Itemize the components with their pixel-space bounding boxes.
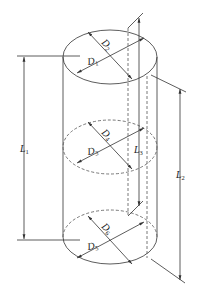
label-D2: D2	[98, 36, 115, 53]
label-D5: D5	[85, 239, 98, 253]
cylinder-diagram: D1 D2 D3 D4 D5 D6 L1 L2 L3	[0, 0, 198, 289]
label-D6: D6	[98, 220, 115, 237]
label-D1: D1	[85, 54, 98, 68]
label-L2: L2	[175, 169, 185, 181]
label-L1: L1	[19, 143, 29, 155]
label-D3: D3	[85, 144, 98, 158]
label-L3: L3	[133, 144, 143, 156]
hidden-lines	[128, 28, 147, 258]
bottom-ellipse	[63, 210, 157, 264]
L3-dimension	[128, 13, 143, 216]
label-D4: D4	[98, 126, 115, 143]
